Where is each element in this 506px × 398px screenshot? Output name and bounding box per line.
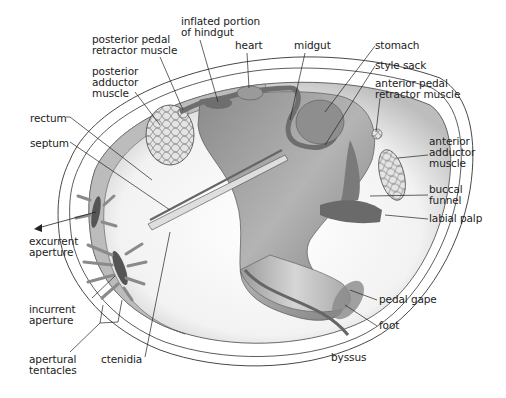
label-excurrent-aperture: excurrent aperture <box>29 236 78 258</box>
inflated-hindgut-shape <box>204 97 232 109</box>
label-heart: heart <box>235 40 262 51</box>
label-labial-palp: labial palp <box>429 213 482 224</box>
label-apertural-tentacles: apertural tentacles <box>29 354 77 376</box>
mussel-anatomy-diagram: inflated portion of hindgut posterior pe… <box>0 0 506 398</box>
label-septum: septum <box>30 138 69 149</box>
label-stomach: stomach <box>375 40 419 51</box>
label-byssus: byssus <box>331 352 366 363</box>
label-anterior-adductor-muscle: anterior adductor muscle <box>429 136 475 169</box>
label-ctenidia: ctenidia <box>101 354 142 365</box>
label-foot: foot <box>379 320 399 331</box>
label-midgut: midgut <box>294 40 331 51</box>
label-anterior-pedal-retractor-muscle: anterior pedal retractor muscle <box>375 78 460 100</box>
label-posterior-adductor-muscle: posterior adductor muscle <box>92 66 138 99</box>
heart-shape <box>237 86 263 100</box>
stomach-shape <box>296 100 344 144</box>
label-inflated-portion-of-hindgut: inflated portion of hindgut <box>181 16 260 38</box>
label-rectum: rectum <box>30 113 67 124</box>
label-buccal-funnel: buccal funnel <box>429 184 463 206</box>
label-pedal-gape: pedal gape <box>379 294 437 305</box>
label-incurrent-aperture: incurrent aperture <box>29 304 76 326</box>
label-posterior-pedal-retractor-muscle: posterior pedal retractor muscle <box>92 34 177 56</box>
label-style-sack: style sack <box>375 60 426 71</box>
